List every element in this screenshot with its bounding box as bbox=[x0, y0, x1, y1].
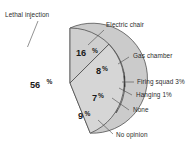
slice-value-no-opinion-number: 9 bbox=[78, 111, 83, 121]
slice-value-none-number: 7 bbox=[92, 93, 97, 103]
callout-label-electric-chair: Electric chair bbox=[106, 21, 145, 28]
pie-chart-figure: Lethal injection Electric chair Gas cham… bbox=[0, 0, 189, 151]
slice-value-gas-chamber-number: 8 bbox=[96, 66, 101, 76]
pie-chart-canvas: Lethal injection Electric chair Gas cham… bbox=[0, 0, 189, 151]
callout-label-gas-chamber: Gas chamber bbox=[133, 52, 173, 59]
slice-value-gas-chamber-sign: % bbox=[102, 65, 108, 72]
slice-value-electric-chair-number: 16 bbox=[76, 48, 86, 58]
slice-value-no-opinion-sign: % bbox=[85, 110, 91, 117]
slice-value-lethal-injection-sign: % bbox=[47, 78, 53, 85]
slice-value-none-sign: % bbox=[98, 92, 104, 99]
callout-label-no-opinion: No opinion bbox=[116, 131, 148, 139]
slice-value-electric-chair-sign: % bbox=[92, 47, 98, 54]
callout-label-hanging: Hanging 1% bbox=[136, 91, 172, 99]
slice-value-lethal-injection-number: 56 bbox=[30, 80, 40, 90]
callout-label-lethal-injection: Lethal injection bbox=[5, 11, 50, 19]
slice-value-lethal-injection: 56 % bbox=[30, 78, 53, 90]
callout-label-firing-squad: Firing squad 3% bbox=[137, 78, 185, 86]
leader-line-lethal-injection bbox=[28, 21, 39, 47]
callout-label-none: None bbox=[133, 106, 149, 113]
